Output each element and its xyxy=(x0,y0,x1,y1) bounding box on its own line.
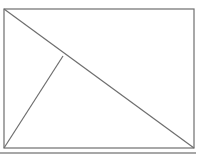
main-diagonal-line xyxy=(4,9,194,148)
secondary-diagonal-line xyxy=(4,56,63,148)
geometry-diagram xyxy=(0,0,205,165)
bottom-edge-shadow xyxy=(0,152,196,154)
figure-canvas xyxy=(0,0,205,165)
